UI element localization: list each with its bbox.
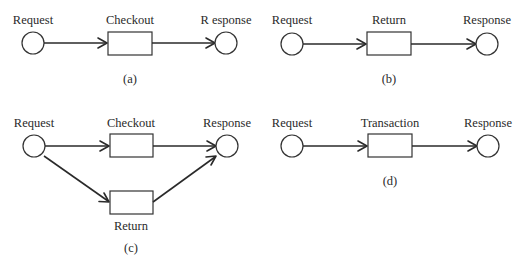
place-response-b <box>476 33 498 55</box>
place-label-response-a: R esponse <box>200 13 251 27</box>
place-request-a <box>22 32 44 54</box>
caption-a: (a) <box>123 72 137 86</box>
place-label-response-d: Response <box>464 116 512 130</box>
transition-return-b <box>367 32 411 55</box>
caption-b: (b) <box>382 72 397 86</box>
place-label-response-c: Response <box>203 116 251 130</box>
transition-checkout-a <box>108 32 152 55</box>
transition-label-checkout-c: Checkout <box>107 116 155 130</box>
diagram-a: Request Checkout R esponse (a) <box>13 13 252 86</box>
place-label-request-b: Request <box>272 13 313 27</box>
caption-d: (d) <box>383 174 398 188</box>
transition-label-transaction-d: Transaction <box>361 116 420 130</box>
transition-label-return-b: Return <box>372 13 407 27</box>
place-label-request-a: Request <box>13 13 54 27</box>
caption-c: (c) <box>124 241 138 255</box>
arc-request-return-c <box>44 156 108 201</box>
place-request-b <box>281 33 303 55</box>
diagram-c: Request Checkout Return Response (c) <box>14 116 252 255</box>
diagram-d: Request Transaction Response (d) <box>272 116 513 188</box>
place-label-response-b: Response <box>463 13 511 27</box>
place-request-d <box>281 135 303 157</box>
transition-label-return-c: Return <box>114 219 149 233</box>
diagram-b: Request Return Response (b) <box>272 13 512 86</box>
place-label-request-c: Request <box>14 116 55 130</box>
transition-transaction-d <box>368 134 412 157</box>
place-label-request-d: Request <box>272 116 313 130</box>
place-response-c <box>216 135 238 157</box>
transition-label-checkout-a: Checkout <box>106 13 154 27</box>
place-response-a <box>215 32 237 54</box>
arc-return-response-c <box>153 157 215 202</box>
place-response-d <box>477 135 499 157</box>
transition-return-c <box>110 191 153 214</box>
transition-checkout-c <box>110 134 153 157</box>
petri-net-figure: Request Checkout R esponse (a) Request R… <box>0 0 521 259</box>
place-request-c <box>23 135 45 157</box>
